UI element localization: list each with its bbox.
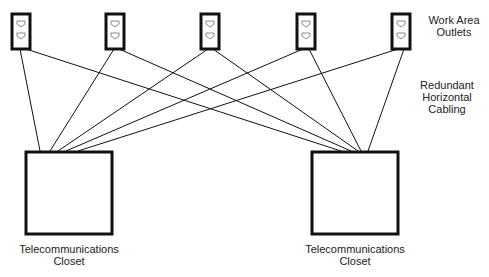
redundant-cabling-label: Redundant Horizontal Cabling [412,79,482,115]
outlet-1 [12,14,30,49]
outlet-2 [106,14,124,49]
outlet-3 [201,14,219,49]
cable-outlet1-closet-left [20,49,40,151]
outlet-4 [297,14,315,49]
closet-right-box [312,152,398,234]
horizontal-cables [20,49,404,151]
cable-outlet5-closet-left [78,49,398,151]
work-area-outlets [12,14,410,49]
outlet-5 [392,14,410,49]
work-area-outlets-label: Work Area Outlets [424,14,484,38]
cable-outlet5-closet-right [368,49,404,151]
closet-left-box [26,152,112,234]
cable-outlet2-closet-left [50,49,114,151]
cabling-diagram [0,0,489,277]
closet-left-label: Telecommunications Closet [14,243,124,267]
closet-right-label: Telecommunications Closet [300,243,410,267]
cable-outlet4-closet-left [66,49,303,151]
